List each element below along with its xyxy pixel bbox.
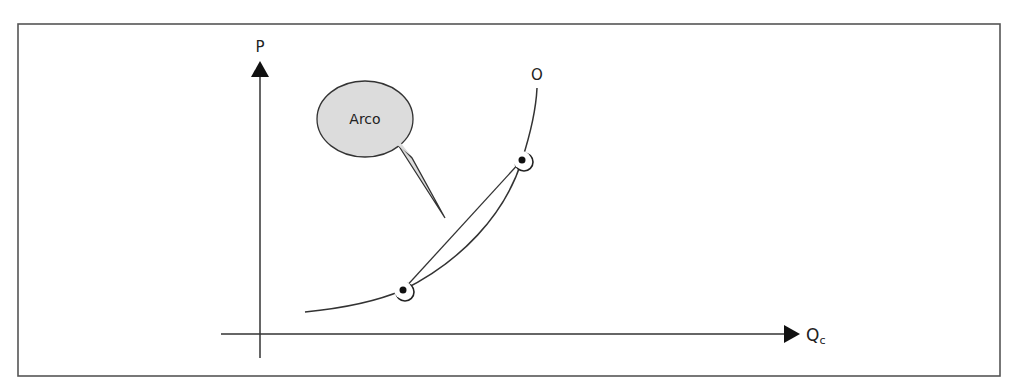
arc-callout-bubble: Arco xyxy=(317,81,445,218)
callout-text: Arco xyxy=(349,111,380,127)
lower-point-marker xyxy=(394,281,414,301)
upper-point-marker xyxy=(513,151,533,171)
arc-elasticity-diagram: P Qc O Arco xyxy=(0,0,1016,391)
y-axis-arrow-icon xyxy=(251,61,269,77)
y-axis-label: P xyxy=(255,38,264,56)
x-axis-label: Qc xyxy=(806,325,825,347)
x-axis-label-subscript: c xyxy=(819,334,825,347)
x-axis-label-main: Q xyxy=(806,325,819,345)
supply-curve-label: O xyxy=(531,66,543,84)
x-axis-arrow-icon xyxy=(784,325,800,343)
diagram-frame xyxy=(18,24,1000,376)
callout-tail xyxy=(395,140,445,218)
